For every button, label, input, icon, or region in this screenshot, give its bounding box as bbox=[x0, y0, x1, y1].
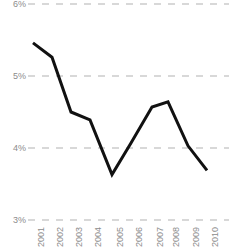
x-axis-label-2002: 2002 bbox=[56, 227, 65, 247]
y-axis-label-4: 4% bbox=[0, 143, 26, 153]
x-axis-label-2008: 2008 bbox=[172, 227, 181, 247]
data-series-group bbox=[33, 43, 207, 175]
series-line-unemployment-rate bbox=[33, 43, 207, 175]
x-axis-label-2001: 2001 bbox=[37, 227, 46, 247]
y-axis-label-5: 5% bbox=[0, 71, 26, 81]
x-axis-label-2004: 2004 bbox=[94, 227, 103, 247]
y-axis-label-3: 3% bbox=[0, 215, 26, 225]
x-axis-label-2010: 2010 bbox=[211, 227, 220, 247]
chart-plot-area bbox=[0, 0, 231, 249]
y-axis-label-6: 6% bbox=[0, 0, 26, 9]
x-axis-label-2009: 2009 bbox=[192, 227, 201, 247]
line-chart: 6%5%4%3% 2001200220032004200520062007200… bbox=[0, 0, 231, 249]
x-axis-label-2003: 2003 bbox=[75, 227, 84, 247]
x-axis-label-2007: 2007 bbox=[156, 227, 165, 247]
gridlines bbox=[28, 4, 229, 220]
x-axis-label-2006: 2006 bbox=[135, 227, 144, 247]
x-axis-label-2005: 2005 bbox=[116, 227, 125, 247]
